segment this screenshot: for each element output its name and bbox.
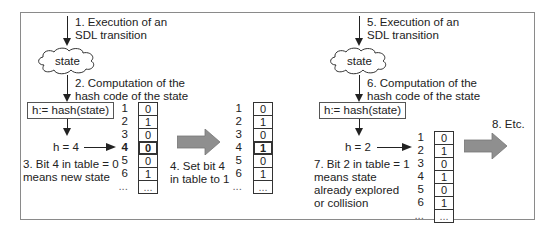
arrow-hash-head [355, 128, 363, 136]
big-arrow-step4-icon [177, 129, 221, 155]
bit-cell: 1 [138, 115, 158, 129]
bit-cell: 0 [138, 154, 158, 168]
step7-line2: means state [314, 171, 377, 184]
arrow-step1-head [63, 38, 71, 46]
h-value: h = 4 [53, 141, 79, 154]
step5-line1: 5. Execution of an [367, 16, 459, 29]
step6-line1: 6. Computation of the [367, 77, 477, 90]
arrow-hash-head [63, 128, 71, 136]
step7-line4: or collision [314, 197, 368, 210]
big-arrow-step8-icon [464, 133, 508, 159]
bit-cell: 0 [434, 157, 454, 171]
pointer-h-shaft [84, 147, 106, 148]
step4-line1: 4. Set bit 4 [170, 160, 225, 173]
step4-line2: in table to 1 [170, 173, 229, 186]
bit-cell: 0 [253, 128, 273, 142]
step1-line2: SDL transition [75, 29, 147, 42]
step8-label: 8. Etc. [492, 118, 525, 131]
step3-line1: 3. Bit 4 in table = 0 [23, 158, 119, 171]
bit-cell: 0 [434, 183, 454, 197]
arrow-step5-head [355, 38, 363, 46]
pointer-h-head [402, 143, 412, 151]
step7-line3: already explored [314, 184, 399, 197]
step7-line1: 7. Bit 2 in table = 1 [314, 158, 410, 171]
step5-line2: SDL transition [367, 29, 439, 42]
pointer-h-head [106, 143, 116, 151]
arrow-step2-head [63, 94, 71, 102]
bit-cell: 1 [434, 170, 454, 184]
bit-cell: ... [253, 180, 273, 194]
h-value: h = 2 [345, 141, 371, 154]
bit-cell-highlighted: 0 [138, 141, 158, 155]
bit-cell: 1 [434, 196, 454, 210]
bit-cell: ... [138, 180, 158, 194]
bit-cell: 0 [253, 102, 273, 116]
bit-cell: 1 [434, 144, 454, 158]
pointer-h-shaft [377, 147, 402, 148]
state-label: state [55, 55, 80, 68]
bit-cell: 0 [138, 128, 158, 142]
arrow-step5-shaft [359, 16, 360, 40]
arrow-step1-shaft [67, 16, 68, 40]
bit-cell: 0 [138, 102, 158, 116]
hash-function-box: h:= hash(state) [319, 102, 406, 119]
step3-line2: means new state [23, 171, 110, 184]
bit-cell: 0 [434, 131, 454, 145]
hash-function-box: h:= hash(state) [27, 102, 114, 119]
bit-cell-highlighted: 1 [253, 141, 273, 155]
bit-cell: 1 [253, 167, 273, 181]
bit-cell: 0 [253, 154, 273, 168]
bit-cell: 1 [253, 115, 273, 129]
bit-cell: 1 [138, 167, 158, 181]
step1-line1: 1. Execution of an [75, 16, 167, 29]
bit-cell: ... [434, 209, 454, 223]
arrow-step6-head [355, 94, 363, 102]
state-label: state [347, 55, 372, 68]
step2-line1: 2. Computation of the [75, 77, 185, 90]
